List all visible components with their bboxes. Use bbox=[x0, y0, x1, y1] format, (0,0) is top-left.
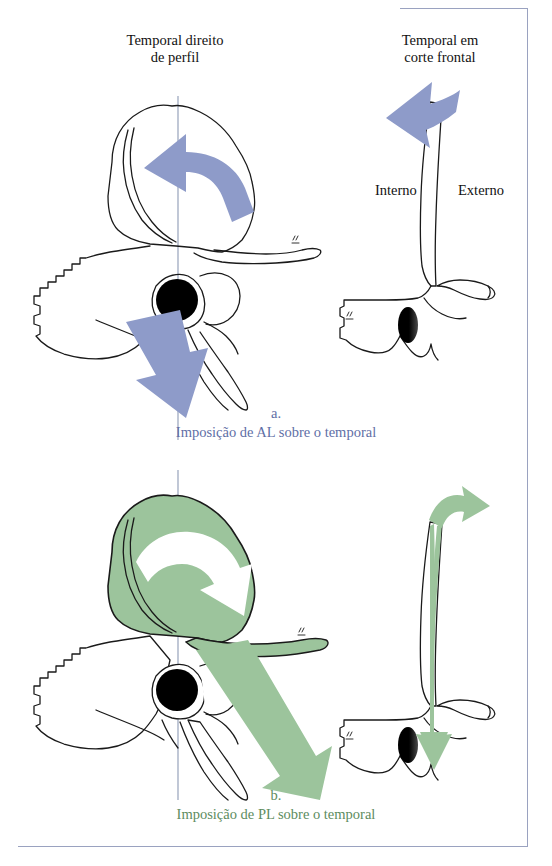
artist-mark-b bbox=[298, 628, 305, 635]
artist-mark-a bbox=[292, 236, 299, 243]
eam-tube-a bbox=[437, 280, 495, 299]
panel-a-frontal-drawing bbox=[330, 60, 530, 360]
panel-b-profile-drawing bbox=[0, 470, 340, 800]
panel-a-profile-drawing bbox=[0, 0, 330, 440]
vaginal-process-b bbox=[162, 720, 178, 748]
articular-eminence bbox=[200, 273, 240, 325]
heading-right-line1: Temporal em bbox=[360, 32, 520, 49]
label-externo: Externo bbox=[458, 182, 504, 199]
figure-page: Temporal direito de perfil Temporal em c… bbox=[0, 0, 552, 866]
external-acoustic-meatus-frontal-b bbox=[398, 727, 418, 763]
caption-b-letter: b. bbox=[126, 786, 426, 805]
descending-arrow-b bbox=[416, 486, 490, 770]
label-interno: Interno bbox=[375, 182, 417, 199]
mastoid-descent-arrow-b bbox=[196, 640, 332, 800]
mastoid-descent-arrow-a bbox=[126, 310, 208, 418]
bottom-rule bbox=[18, 846, 527, 847]
top-rule bbox=[400, 8, 527, 9]
caption-b: b. Imposição de PL sobre o temporal bbox=[126, 786, 426, 824]
external-acoustic-meatus-frontal-a bbox=[398, 307, 418, 343]
glenoid-fossa bbox=[204, 322, 238, 354]
eam-tube-mouth-a bbox=[488, 286, 490, 298]
caption-a: a. Imposição de AL sobre o temporal bbox=[126, 404, 426, 442]
caption-a-letter: a. bbox=[126, 404, 426, 423]
squama-base-join-a bbox=[424, 298, 466, 319]
squama-ridge-inner bbox=[130, 128, 176, 242]
eam-tube-mouth-b bbox=[488, 706, 490, 718]
artist-mark-frontal-b bbox=[346, 732, 353, 739]
artist-mark-frontal-a bbox=[346, 312, 353, 319]
caption-a-text: Imposição de AL sobre o temporal bbox=[176, 424, 376, 440]
eam-tube-b bbox=[437, 700, 495, 719]
panel-b-frontal-drawing bbox=[330, 470, 530, 780]
caption-b-text: Imposição de PL sobre o temporal bbox=[177, 806, 376, 822]
external-acoustic-meatus-b bbox=[156, 669, 198, 711]
superior-medial-arrow-a bbox=[386, 82, 460, 148]
